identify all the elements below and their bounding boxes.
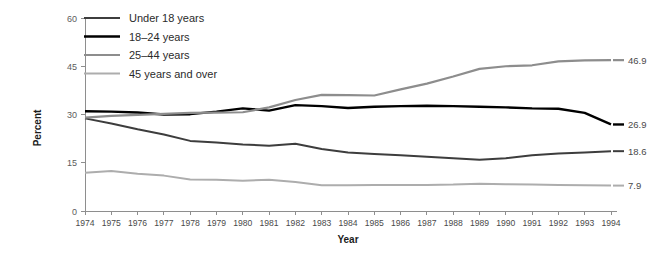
line-chart: 015304560 197419751976197719781979198019…	[0, 0, 656, 261]
y-axis-title: Percent	[32, 109, 43, 146]
x-tick-label: 1979	[207, 218, 226, 228]
y-tick-label: 0	[72, 207, 77, 217]
x-axis-title: Year	[337, 234, 358, 245]
x-tick-label: 1990	[496, 218, 515, 228]
y-tick-label: 15	[67, 158, 77, 168]
legend-label-0: Under 18 years	[129, 12, 205, 24]
x-tick-label: 1991	[523, 218, 542, 228]
x-tick-label: 1983	[312, 218, 331, 228]
x-tick-label: 1988	[444, 218, 463, 228]
legend-label-2: 25–44 years	[129, 49, 190, 61]
x-tick-label: 1994	[601, 218, 620, 228]
series-end-label: 7.9	[628, 180, 641, 191]
x-tick-label: 1974	[75, 218, 94, 228]
x-tick-label: 1987	[417, 218, 436, 228]
series-end-label: 18.6	[628, 146, 647, 157]
x-tick-label: 1993	[575, 218, 594, 228]
x-tick-label: 1977	[154, 218, 173, 228]
legend-label-3: 45 years and over	[129, 68, 217, 80]
series-line-3	[85, 171, 611, 185]
x-tick-label: 1985	[365, 218, 384, 228]
x-tick-label: 1982	[286, 218, 305, 228]
series-end-label: 46.9	[628, 55, 647, 66]
x-tick-label: 1989	[470, 218, 489, 228]
series-end-labels: 18.626.946.97.9	[613, 55, 647, 191]
x-tick-label: 1986	[391, 218, 410, 228]
x-tick-label: 1975	[102, 218, 121, 228]
x-tick-label: 1978	[181, 218, 200, 228]
x-tick-label: 1981	[260, 218, 279, 228]
x-tick-label: 1976	[128, 218, 147, 228]
chart-canvas: 015304560 197419751976197719781979198019…	[0, 0, 656, 261]
series-line-0	[85, 118, 611, 159]
x-axis: 1974197519761977197819791980198119821983…	[75, 211, 620, 228]
x-tick-label: 1984	[338, 218, 357, 228]
chart-legend: Under 18 years18–24 years25–44 years45 y…	[84, 12, 217, 80]
x-tick-label: 1992	[549, 218, 568, 228]
y-axis: 015304560	[67, 14, 85, 217]
y-tick-label: 30	[67, 110, 77, 120]
y-tick-label: 45	[67, 62, 77, 72]
x-tick-label: 1980	[233, 218, 252, 228]
legend-label-1: 18–24 years	[129, 31, 190, 43]
y-tick-label: 60	[67, 14, 77, 24]
series-end-label: 26.9	[628, 119, 647, 130]
